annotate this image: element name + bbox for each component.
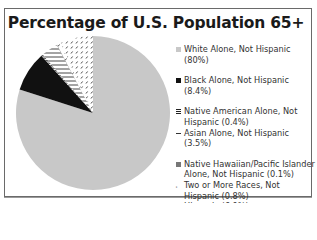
legend-label: Asian Alone, Not Hispanic (3.5%) (184, 128, 289, 149)
legend-item-native-american: Native American Alone, Not Hispanic (0.4… (176, 106, 316, 127)
legend-label: Native Hawaiian/Pacific Islander (184, 159, 315, 169)
legend-swatch-sparse-dots-icon: ⸼ (176, 182, 182, 187)
legend-label: Native American Alone, Not (184, 106, 297, 116)
legend-swatch-black-icon (176, 78, 181, 83)
legend-item-two-or-more: ⸼ Two or More Races, Not Hispanic (0.8%) (176, 180, 316, 201)
legend-label-cont: Alone, Not Hispanic (0.1%) (184, 169, 294, 179)
legend-label: Two or More Races, Not (184, 180, 280, 190)
legend-label-cont: Hispanic (0.4%) (184, 117, 249, 127)
legend-item-pacific-islander: Native Hawaiian/Pacific Islander Alone, … (176, 159, 316, 180)
legend-label: White Alone, Not Hispanic (80%) (184, 44, 291, 65)
legend-item-asian: Asian Alone, Not Hispanic (3.5%) (176, 128, 316, 149)
chart-legend: White Alone, Not Hispanic (80%) Black Al… (176, 44, 316, 203)
legend-item-black: Black Alone, Not Hispanic (8.4%) (176, 75, 316, 96)
legend-swatch-lines-icon (176, 109, 181, 114)
legend-item-hispanic: ⁖ Hispanic (6.9%) (176, 201, 316, 203)
legend-swatch-darkgray-icon (176, 162, 181, 167)
legend-label: Hispanic (6.9%) (184, 201, 249, 203)
legend-swatch-gray-icon (176, 47, 181, 52)
legend-label: Black Alone, Not Hispanic (8.4%) (184, 75, 289, 96)
legend-swatch-dash-icon (176, 133, 181, 134)
legend-item-white: White Alone, Not Hispanic (80%) (176, 44, 316, 65)
legend-label-cont: Hispanic (0.8%) (184, 191, 249, 201)
